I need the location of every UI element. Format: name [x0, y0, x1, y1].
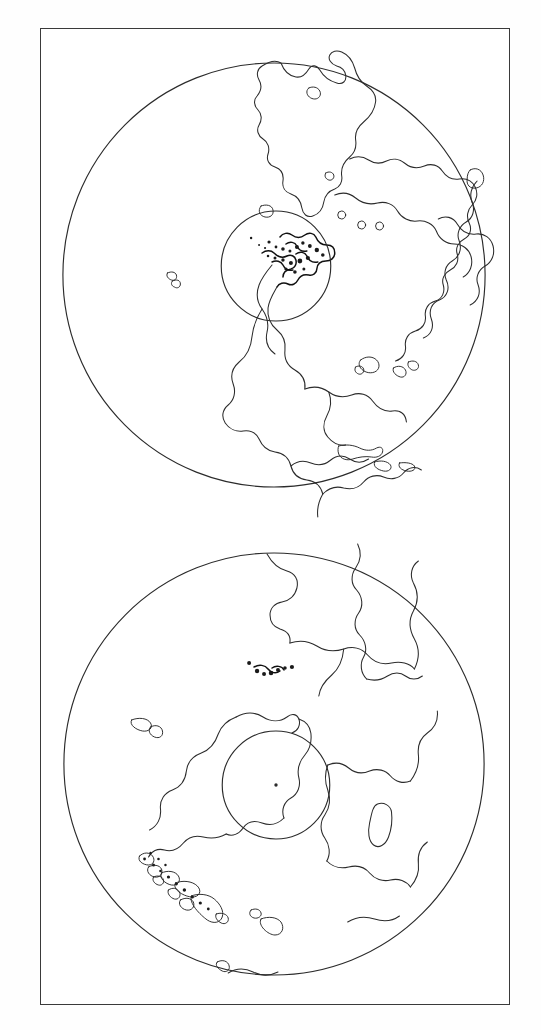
coastline-canadian-arctic-archipelago [250, 233, 335, 287]
coastline-brazil-islets [247, 661, 294, 676]
coastline-africa-northwest [367, 673, 423, 680]
coastline-iceland [307, 87, 321, 99]
coastline-island-europe-2 [358, 221, 366, 229]
coastline-island-europe-1 [338, 211, 346, 219]
coastline-atlantic-isle-1 [131, 718, 151, 731]
coastline-south-america-northeast [290, 641, 414, 669]
coastline-argentina-east [283, 719, 311, 818]
globe-limb-circle [64, 553, 484, 975]
coastline-south-sandwich [348, 916, 400, 922]
globe-limb-circle [63, 63, 485, 487]
coastline-greenland [255, 51, 376, 217]
inner-circle-center-marker [274, 783, 277, 786]
coastline-east-isle-tiny [408, 361, 419, 370]
coastline-madagascar [369, 803, 392, 846]
coastline-south-america-south [236, 713, 299, 733]
coastline-north-america-east [305, 387, 407, 422]
coastline-east-isle-small [393, 366, 406, 377]
coastline-africa-west-upper [438, 217, 493, 305]
coastline-azores-2 [171, 280, 180, 288]
coastline-azores-1 [167, 272, 177, 280]
coastline-africa-east [410, 711, 437, 781]
coastline-north-america-west [223, 309, 323, 494]
coastline-brazil-bulge [410, 561, 418, 669]
coastline-brazil-east [319, 649, 344, 696]
figure-page [0, 0, 541, 1030]
coastline-africa-guinea [328, 763, 411, 782]
coastline-hispaniola [374, 461, 391, 471]
coastline-small-isle-a [325, 172, 334, 180]
inner-coverage-circle [221, 211, 331, 321]
coastline-south-america-north [267, 554, 297, 643]
coastline-eastern-peninsula [467, 169, 484, 189]
coastline-chilean-archipelago [139, 852, 228, 924]
coastline-chile-coast [149, 834, 227, 857]
coastline-hudson-bay-west [257, 265, 275, 354]
globe-panel-north-atlantic [41, 29, 509, 521]
figure-border-frame [40, 28, 510, 1005]
coastline-island-europe-3 [376, 222, 384, 230]
coastline-scandinavia [350, 157, 477, 361]
coastline-gulf-florida [324, 392, 346, 445]
coastline-falkland-2 [260, 917, 283, 935]
coastline-canada-hudson-bay [268, 287, 305, 389]
coastline-newfoundland [359, 357, 379, 373]
globe-panel-south-atlantic [41, 521, 509, 1006]
coastline-south-america-north [323, 468, 422, 494]
coastline-south-america-east [318, 494, 323, 517]
coastline-falkland-1 [250, 909, 262, 918]
coastline-africa-southeast [410, 842, 427, 887]
coastline-europe [335, 193, 472, 277]
coastline-cuba [338, 445, 383, 460]
coastline-eastern-limb [423, 181, 477, 338]
north-atlantic-globe-svg [41, 29, 509, 521]
south-atlantic-globe-svg [41, 521, 509, 1006]
coastline-africa-west [352, 544, 367, 679]
coastline-africa-south [327, 861, 411, 887]
